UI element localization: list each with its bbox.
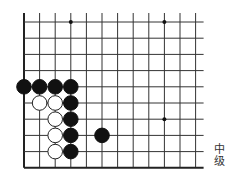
black-stone	[64, 144, 79, 159]
star-point	[162, 117, 166, 121]
black-stone	[32, 80, 47, 95]
white-stone	[48, 112, 63, 127]
go-board	[0, 0, 229, 188]
star-point	[69, 20, 73, 24]
black-stone	[48, 80, 63, 95]
black-stone	[64, 128, 79, 143]
star-point	[162, 20, 166, 24]
white-stone	[48, 128, 63, 143]
black-stone	[95, 128, 110, 143]
white-stone	[48, 144, 63, 159]
white-stone	[32, 96, 47, 111]
white-stone	[48, 96, 63, 111]
level-char-2: 级	[212, 156, 226, 168]
difficulty-level-label: 中 级	[212, 144, 226, 168]
black-stone	[17, 80, 32, 95]
black-stone	[64, 96, 79, 111]
black-stone	[64, 112, 79, 127]
black-stone	[64, 80, 79, 95]
